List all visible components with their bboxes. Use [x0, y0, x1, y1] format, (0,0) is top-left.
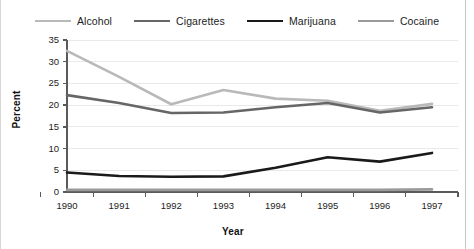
x-tick-label: 1995: [306, 200, 350, 211]
y-tick-label: 10: [35, 143, 59, 154]
x-tick-label: 1997: [410, 200, 454, 211]
series-line-alcohol: [67, 51, 432, 111]
legend-swatch-cigarettes: [134, 20, 170, 23]
chart-figure: Alcohol Cigarettes Marijuana Cocaine 051…: [0, 0, 474, 249]
x-axis-title: Year: [0, 226, 466, 237]
x-tick-label: 1993: [201, 200, 245, 211]
plot-area: [0, 30, 474, 205]
y-tick-label: 0: [35, 186, 59, 197]
y-tick-label: 20: [35, 99, 59, 110]
legend-swatch-marijuana: [247, 20, 283, 23]
plot-svg: [0, 30, 474, 205]
x-tick-label: 1994: [254, 200, 298, 211]
y-tick-label: 5: [35, 164, 59, 175]
legend-label-marijuana: Marijuana: [289, 15, 336, 27]
y-axis-title: Percent: [11, 80, 22, 140]
y-tick-label: 25: [35, 77, 59, 88]
axis-ticks: [41, 40, 458, 197]
series-lines: [67, 51, 432, 190]
legend-swatch-cocaine: [358, 20, 394, 23]
legend-item-alcohol[interactable]: Alcohol: [35, 15, 112, 27]
legend-item-cigarettes[interactable]: Cigarettes: [134, 15, 225, 27]
x-tick-label: 1992: [149, 200, 193, 211]
chart-legend: Alcohol Cigarettes Marijuana Cocaine: [0, 10, 474, 32]
legend-swatch-alcohol: [35, 20, 71, 23]
x-tick-label: 1991: [97, 200, 141, 211]
x-tick-label: 1990: [45, 200, 89, 211]
series-line-marijuana: [67, 153, 432, 177]
x-tick-label: 1996: [358, 200, 402, 211]
y-tick-label: 35: [35, 34, 59, 45]
legend-label-alcohol: Alcohol: [77, 15, 112, 27]
legend-item-cocaine[interactable]: Cocaine: [358, 15, 439, 27]
y-tick-label: 30: [35, 56, 59, 67]
y-tick-label: 15: [35, 121, 59, 132]
legend-label-cocaine: Cocaine: [400, 15, 439, 27]
legend-label-cigarettes: Cigarettes: [176, 15, 225, 27]
legend-item-marijuana[interactable]: Marijuana: [247, 15, 336, 27]
